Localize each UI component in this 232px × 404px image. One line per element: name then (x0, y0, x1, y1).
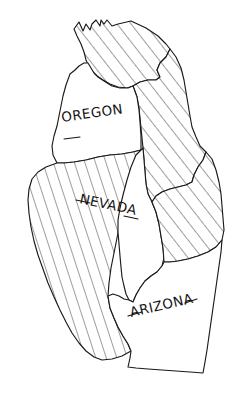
map-figure: OREGON NEVADA ARIZONA (0, 0, 232, 404)
map-canvas: OREGON NEVADA ARIZONA (0, 0, 232, 404)
